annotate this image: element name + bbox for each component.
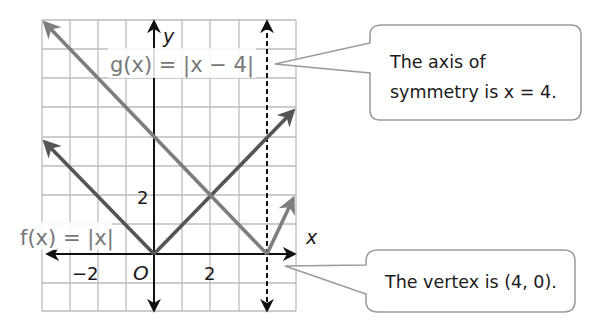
- origin-label: O: [133, 261, 149, 285]
- x-tick-neg2: −2: [72, 263, 99, 284]
- vertex-callout-text: The vertex is (4, 0).: [384, 272, 557, 292]
- vertex-callout: The vertex is (4, 0).: [285, 250, 575, 312]
- axis-callout-line1: The axis of: [389, 52, 486, 72]
- axis-callout-line2: symmetry is x = 4.: [390, 82, 557, 102]
- y-tick-2: 2: [137, 187, 148, 208]
- x-tick-2: 2: [204, 263, 215, 284]
- f-label: f(x) = |x|: [20, 226, 114, 251]
- g-label: g(x) = |x − 4|: [110, 53, 254, 78]
- y-axis-label: y: [162, 25, 175, 47]
- axis-callout: The axis of symmetry is x = 4.: [275, 25, 581, 120]
- x-axis-label: x: [305, 226, 318, 248]
- graph-canvas: g(x) = |x − 4| f(x) = |x| y x O −2 2 2 T…: [0, 0, 599, 331]
